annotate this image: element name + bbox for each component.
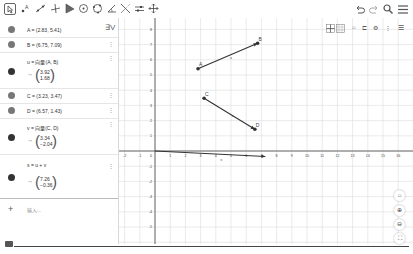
slider-tool-icon [134,3,145,14]
zoom-in-button[interactable]: ⊕ [394,205,405,216]
point-label: B [259,36,263,42]
home-button[interactable]: ⌂ [394,190,405,201]
y-tick-label: -5 [149,225,152,229]
y-tick-label: -1 [149,165,152,169]
input-field[interactable]: 输入... [27,206,41,213]
algebra-item-u[interactable]: u = 向量(A, B) → ( 3.92 1.68 ) ⋮ [0,52,118,89]
point-C [202,96,206,100]
add-icon[interactable]: + [8,204,13,214]
x-tick-label: 1 [169,154,171,158]
circle-three-points-tool-icon [92,3,103,14]
algebra-item-s[interactable]: s = u + v → ( 7.26 −0.36 ) ⋮ [0,154,118,199]
right-paren: ) [50,67,55,82]
point-B [256,41,260,45]
algebra-item-text[interactable]: D = (6.57, 1.43) [27,108,62,114]
polygon-tool[interactable] [64,3,75,14]
algebra-item-v[interactable]: v = 向量(C, D) → ( 3.34 −2.04 ) ⋮ [0,118,118,155]
keyboard-icon[interactable] [5,241,13,247]
angle-tool[interactable] [106,3,117,14]
more-icon[interactable]: ⋮ [385,24,391,31]
y-tick-label: 4 [150,89,152,93]
zoom-out-button[interactable]: ⊖ [394,219,405,230]
vector-u [198,43,258,69]
redo-button[interactable] [368,3,380,15]
y-tick-label: 3 [150,104,152,108]
home-view-icon[interactable]: ⌂ [352,24,356,30]
more-options-icon[interactable]: ⋮ [108,54,114,61]
algebra-item-C[interactable]: C = (3.23, 3.47) ⋮ [0,88,118,104]
graphics-view[interactable]: -2-101234567891011121314151687654321-1-2… [119,18,413,244]
x-tick-label: 10 [305,154,309,158]
angle-tool-icon [106,3,117,14]
visibility-toggle[interactable] [8,107,15,114]
point-label: D [256,122,260,128]
point-tool-icon: A [20,3,31,14]
vector-component-y: −2.04 [40,142,53,147]
right-paren: ) [52,174,57,189]
vector-component-y: −0.36 [40,183,53,188]
algebra-item-B[interactable]: B = (6.75, 7.09) ⋮ [0,37,118,53]
mode-icon[interactable]: ⊏ [362,24,367,31]
more-options-icon[interactable]: ⋮ [108,40,114,47]
graphics-canvas[interactable]: -2-101234567891011121314151687654321-1-2… [119,18,413,244]
visibility-toggle[interactable] [8,92,15,99]
grid-axes-button[interactable] [326,24,335,34]
more-options-icon[interactable]: ⋮ [108,120,114,127]
algebra-item-text[interactable]: v = 向量(C, D) [27,124,59,131]
y-tick-label: 7 [150,43,152,47]
more-options-icon[interactable]: ⋮ [108,106,114,113]
y-tick-label: 8 [150,28,152,32]
undo-button[interactable] [354,3,366,15]
graphics-menu-icon[interactable]: ☰ [398,24,404,32]
visibility-toggle[interactable] [8,68,15,75]
algebra-item-text[interactable]: B = (6.75, 7.09) [27,42,62,48]
menu-button[interactable] [397,3,409,15]
line-tool-icon [35,3,46,14]
circle-tool-icon [78,3,89,14]
x-tick-label: 14 [366,154,370,158]
algebra-item-D[interactable]: D = (6.57, 1.43) ⋮ [0,103,118,119]
more-options-icon[interactable]: ⋮ [108,162,114,169]
visibility-toggle[interactable] [8,134,15,141]
x-tick-label: -1 [138,154,141,158]
algebra-view: A = (2.83, 5.41) B = (6.75, 7.09) ⋮ u = … [0,18,118,240]
x-tick-label: 16 [396,154,400,158]
undo-icon [354,3,366,15]
algebra-item-text[interactable]: s = u + v [27,162,46,168]
x-tick-label: 8 [276,154,278,158]
redo-icon [368,3,380,15]
result-arrow: → [27,178,33,184]
y-tick-label: -4 [149,210,152,214]
visibility-toggle[interactable] [8,26,15,33]
grid-button[interactable] [336,24,345,34]
reflect-tool[interactable] [120,3,131,14]
move-view-tool[interactable] [148,3,159,14]
input-bar[interactable]: + 输入... [0,204,118,216]
y-tick-label: -3 [149,195,152,199]
y-tick-label: 1 [150,134,152,138]
line-tool[interactable] [35,3,46,14]
move-tool-icon [5,4,15,14]
point-tool[interactable]: A [20,3,31,14]
algebra-item-text[interactable]: C = (3.23, 3.47) [27,93,62,99]
circle-tool[interactable] [78,3,89,14]
more-options-icon[interactable]: ⋮ [108,91,114,98]
fullscreen-button[interactable]: ⛶ [394,233,405,244]
vector-arrowhead [261,154,265,158]
bottom-divider [14,246,409,247]
visibility-toggle[interactable] [8,41,15,48]
algebra-item-A[interactable]: A = (2.83, 5.41) [0,22,118,38]
algebra-item-text[interactable]: A = (2.83, 5.41) [27,27,61,33]
search-button[interactable] [382,3,394,15]
perpendicular-tool[interactable] [50,3,61,14]
slider-tool[interactable] [134,3,145,14]
visibility-toggle[interactable] [8,174,15,181]
x-tick-label: -2 [123,154,126,158]
point-style-icon[interactable]: ⚙ [373,24,378,31]
circle-three-points-tool[interactable] [92,3,103,14]
algebra-item-text[interactable]: u = 向量(A, B) [27,58,58,65]
y-tick-label: -2 [149,180,152,184]
point-D [253,127,257,131]
move-tool[interactable] [4,3,16,15]
sort-button[interactable]: ∃V [105,23,115,32]
